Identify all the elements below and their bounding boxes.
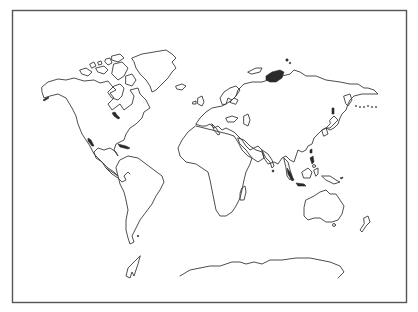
solomon-islands — [340, 177, 343, 179]
novaya-zemlya — [248, 68, 262, 74]
philippines-south — [313, 165, 316, 168]
korea — [322, 128, 328, 136]
caribbean — [118, 144, 130, 149]
italy — [212, 124, 220, 135]
ireland — [193, 101, 196, 104]
world-map — [0, 0, 418, 312]
severnaya-zemlya — [266, 70, 284, 82]
hudson-bay — [108, 84, 124, 100]
new-zealand — [360, 216, 370, 232]
antarctica — [180, 258, 344, 278]
greenland — [132, 50, 176, 92]
falkland-islands — [137, 235, 139, 237]
new-siberian-islands — [286, 59, 288, 61]
british-isles — [198, 96, 204, 106]
arctic-islet — [289, 62, 291, 64]
antarctic-peninsula — [126, 256, 140, 278]
map-border — [13, 11, 407, 303]
sri-lanka — [272, 170, 274, 172]
sulawesi — [314, 168, 318, 176]
caspian-sea — [244, 114, 250, 126]
taiwan — [310, 149, 312, 153]
great-lakes — [112, 112, 120, 119]
japan-hokkaido — [332, 108, 334, 114]
java — [296, 183, 306, 186]
south-america — [116, 156, 164, 244]
borneo — [302, 168, 312, 178]
kuril-islands — [355, 105, 376, 107]
new-guinea — [322, 176, 340, 184]
baltic-sea — [230, 98, 238, 104]
tasmania — [333, 224, 336, 227]
europe — [196, 70, 378, 164]
philippines — [310, 156, 314, 164]
iceland — [176, 84, 186, 90]
australia — [304, 190, 344, 222]
black-sea — [226, 116, 238, 122]
indian-subcontinent — [262, 150, 274, 168]
north-america — [42, 78, 150, 176]
